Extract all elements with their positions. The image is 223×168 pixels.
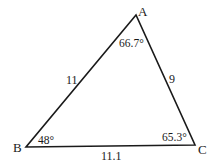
angle-label-c: 65.3° [162,131,187,143]
triangle-diagram: A B C 66.7° 48° 65.3° 11 9 11.1 [0,0,223,168]
side-label-ab: 11 [66,73,78,87]
vertex-label-b: B [13,140,22,155]
side-label-ac: 9 [169,72,175,86]
angle-label-a: 66.7° [119,37,144,49]
vertex-label-a: A [138,4,148,19]
side-label-bc: 11.1 [101,149,122,163]
angle-label-b: 48° [38,134,55,146]
vertex-label-c: C [198,142,207,157]
